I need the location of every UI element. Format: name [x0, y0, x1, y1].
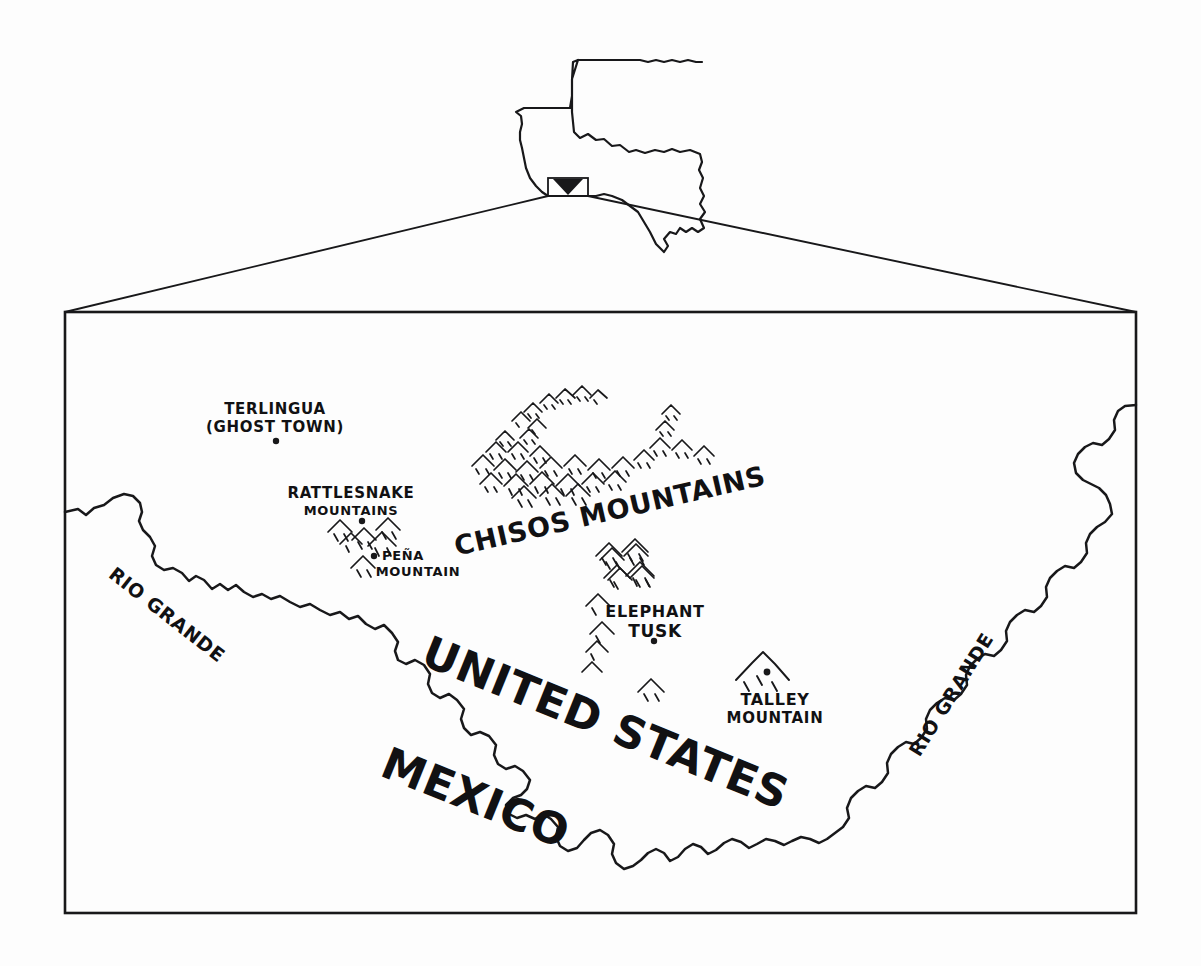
pena-line-1: PEÑA: [382, 548, 424, 563]
talley-glyph: [736, 652, 789, 691]
dot-rattlesnake: [359, 518, 365, 524]
dot-talley: [764, 669, 771, 676]
place-dots: [273, 438, 771, 676]
talley-line-1: TALLEY: [740, 690, 809, 709]
rattlesnake-line-1: RATTLESNAKE: [287, 484, 414, 502]
terlingua-line-2: (GHOST TOWN): [206, 418, 344, 436]
label-rio-grande-east: RIO GRANDE: [904, 629, 997, 760]
label-pena-mountain: PEÑA MOUNTAIN: [376, 548, 461, 579]
label-talley-mountain: TALLEY MOUNTAIN: [727, 690, 824, 727]
label-rattlesnake-mountains: RATTLESNAKE MOUNTAINS: [287, 484, 414, 518]
elephant-tusk-line-2: TUSK: [628, 621, 682, 641]
label-elephant-tusk: ELEPHANT TUSK: [605, 602, 704, 641]
terlingua-line-1: TERLINGUA: [224, 400, 326, 418]
pena-line-2: MOUNTAIN: [376, 564, 461, 579]
talley-line-2: MOUNTAIN: [727, 709, 824, 727]
rattlesnake-line-2: MOUNTAINS: [304, 503, 399, 518]
leader-lines: [65, 196, 1136, 312]
dot-terlingua: [273, 438, 279, 444]
elephant-tusk-line-1: ELEPHANT: [605, 602, 704, 621]
label-terlingua: TERLINGUA (GHOST TOWN): [206, 400, 344, 436]
label-mexico: MEXICO: [374, 737, 577, 858]
big-bend-locator-map: TERLINGUA (GHOST TOWN) RATTLESNAKE MOUNT…: [0, 0, 1201, 966]
big-bend-location-marker: [548, 178, 588, 196]
pena-glyph: [351, 556, 375, 577]
texas-inset: [516, 60, 705, 252]
dot-pena: [371, 553, 377, 559]
map-canvas: TERLINGUA (GHOST TOWN) RATTLESNAKE MOUNT…: [0, 0, 1201, 966]
label-rio-grande-west: RIO GRANDE: [105, 562, 230, 666]
marker-triangle-icon: [553, 179, 583, 195]
